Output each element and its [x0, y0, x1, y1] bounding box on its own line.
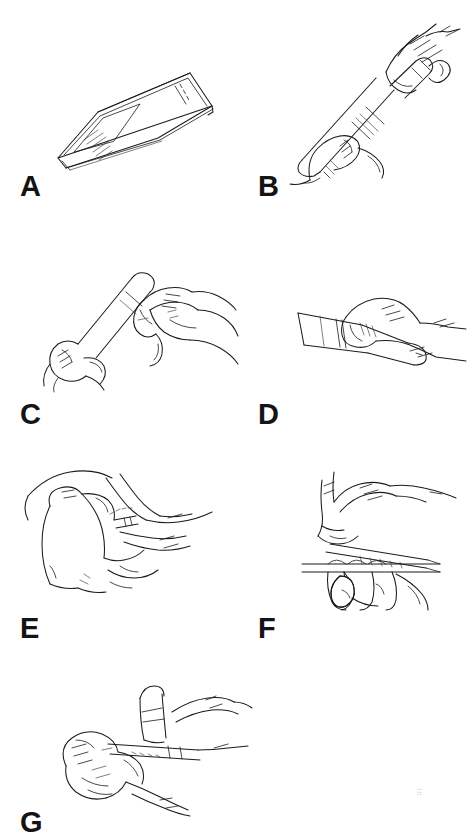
panel-e-illustration [20, 462, 235, 597]
panel-f-illustration [300, 460, 465, 610]
panel-d-illustration [290, 295, 468, 400]
panel-label-d: D [258, 400, 279, 429]
panel-label-a: A [20, 172, 41, 201]
panel-g-illustration [48, 678, 263, 818]
panel-b-illustration [290, 10, 468, 185]
illustration-figure: A [0, 0, 468, 836]
panel-label-c: C [20, 400, 41, 429]
panel-a-illustration [40, 60, 230, 180]
panel-label-e: E [20, 614, 39, 643]
panel-label-f: F [258, 614, 276, 643]
panel-c-illustration [40, 262, 240, 392]
panel-label-g: G [20, 808, 43, 836]
scan-artifact-speck: ⠿ [416, 790, 422, 800]
panel-label-b: B [258, 172, 279, 201]
